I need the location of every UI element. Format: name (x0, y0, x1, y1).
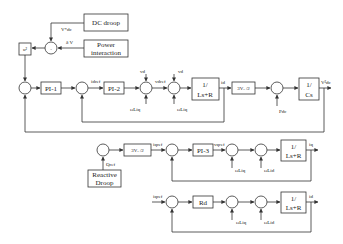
sum-junction-3 (140, 82, 152, 94)
square-block: u² (19, 43, 31, 55)
reactive-droop-block: Reactive Droop (88, 170, 121, 187)
sum-junction-r3 (255, 196, 267, 208)
vdc2-output-label: V²dc (321, 80, 332, 85)
svg-text:PI-1: PI-1 (45, 85, 58, 93)
svg-text:Ls+R: Ls+R (286, 152, 302, 160)
sum-junction-2 (76, 82, 88, 94)
sum-junction-4 (168, 82, 180, 94)
pdc-label: Pdc (279, 109, 287, 114)
qref-label: Qref (106, 162, 115, 167)
svg-text:PI-2: PI-2 (108, 85, 121, 93)
sum-junction-1 (19, 82, 31, 94)
svg-text:Rd: Rd (199, 199, 208, 207)
svg-text:1/: 1/ (202, 81, 208, 89)
plant-q-block: 1/ Ls+R (281, 140, 306, 161)
vqref-label: vqref (214, 142, 225, 147)
svg-text:Reactive: Reactive (92, 171, 117, 179)
pi3-block: PI-3 (193, 144, 213, 156)
dc-droop-block: DC droop (84, 14, 128, 31)
svg-text:PI-3: PI-3 (197, 147, 210, 155)
id-output-label: id (221, 80, 225, 85)
coupling-label-6: ωLid (264, 220, 275, 225)
sum-junction-q0 (97, 144, 109, 156)
sum-junction-q2 (226, 144, 238, 156)
vd-label-2: vd (178, 69, 184, 74)
delta-v-label: δ V (66, 40, 74, 45)
svg-text:Droop: Droop (96, 179, 114, 187)
coupling-label-2: ωLiq (177, 107, 188, 112)
gain-q-block: 3Vₓ /2 (124, 144, 151, 156)
svg-text:1/: 1/ (306, 81, 312, 89)
vdc-ref-label: V*dc (61, 27, 73, 32)
control-block-diagram: DC droop Power interaction V*dc δ V - u²… (0, 0, 343, 244)
vd-label-1: vd (140, 69, 146, 74)
svg-text:1/: 1/ (291, 195, 297, 203)
svg-text:DC droop: DC droop (92, 19, 120, 27)
gain-p-block: 3Vₓ /2 (232, 82, 255, 94)
svg-text:3Vₓ /2: 3Vₓ /2 (237, 86, 250, 91)
svg-text:Power: Power (97, 41, 116, 49)
vdref-label: vdref (155, 79, 166, 84)
capacitor-block: 1/ Cs (299, 78, 319, 100)
sum-junction-5 (271, 82, 283, 94)
id3-output-label: id (309, 194, 313, 199)
sum-junction-q1 (166, 144, 178, 156)
coupling-label-3: ωLiq (235, 168, 246, 173)
svg-text:Ls+R: Ls+R (286, 204, 302, 212)
iqref-label: iqref (153, 142, 163, 147)
sum-junction-r1 (166, 196, 178, 208)
svg-text:Cs: Cs (305, 91, 313, 99)
sum-junction-q3 (255, 144, 267, 156)
plant-3-block: 1/ Ls+R (281, 192, 306, 213)
iref3-label: iqref (153, 194, 163, 199)
pi2-block: PI-2 (104, 82, 124, 94)
sum-junction-top: - (45, 42, 57, 54)
pi1-block: PI-1 (41, 82, 61, 94)
svg-text:1/: 1/ (291, 143, 297, 151)
plant-d-block: 1/ Ls+R (192, 78, 219, 100)
iq-output-label: iq (309, 142, 313, 147)
svg-text:Ls+R: Ls+R (197, 91, 213, 99)
svg-text:3Vₓ /2: 3Vₓ /2 (131, 148, 144, 153)
rd-block: Rd (193, 196, 213, 208)
coupling-label-4: ωLid (264, 168, 275, 173)
svg-text:u²: u² (23, 47, 28, 52)
coupling-label-1: ωLiq (130, 107, 141, 112)
sum-junction-r2 (226, 196, 238, 208)
svg-text:interaction: interaction (91, 49, 121, 57)
id-ref-label: idref (91, 79, 101, 84)
power-interaction-block: Power interaction (84, 40, 128, 57)
coupling-label-5: ωLiq (236, 220, 247, 225)
